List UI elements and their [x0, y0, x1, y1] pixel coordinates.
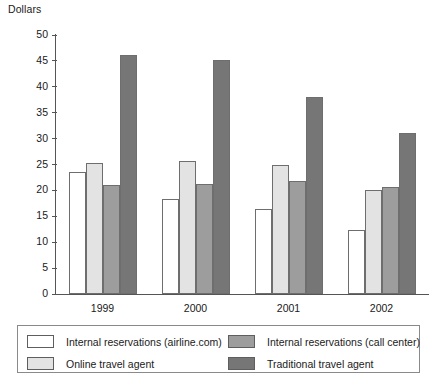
bar [120, 55, 137, 294]
bar [69, 172, 86, 294]
legend-label: Traditional travel agent [267, 358, 373, 370]
y-tick-label: 15 [36, 209, 48, 222]
y-tick-mark [52, 112, 57, 113]
y-tick-label: 50 [36, 28, 48, 41]
x-axis-label: 1999 [56, 302, 149, 314]
y-tick-label: 25 [36, 158, 48, 171]
bar-group [69, 35, 137, 294]
bar [289, 181, 306, 294]
bar-group [162, 35, 230, 294]
y-tick-mark [52, 268, 57, 269]
bar [196, 184, 213, 294]
bar [348, 230, 365, 294]
chart-legend: Internal reservations (airline.com)Onlin… [17, 325, 420, 373]
y-tick-mark [52, 190, 57, 191]
bar [272, 165, 289, 295]
y-tick-label: 45 [36, 54, 48, 67]
bar [365, 190, 382, 294]
x-axis-label: 2001 [242, 302, 335, 314]
bar [255, 209, 272, 294]
legend-swatch [228, 335, 255, 348]
legend-entry: Online travel agent [27, 355, 222, 372]
bar [103, 185, 120, 294]
legend-label: Internal reservations (airline.com) [66, 336, 222, 348]
y-tick-label: 30 [36, 132, 48, 145]
bar-group [348, 35, 416, 294]
y-tick-mark [52, 35, 57, 36]
x-axis-line [55, 294, 429, 295]
y-tick-label: 20 [36, 183, 48, 196]
plot-area: 05101520253035404550 [56, 35, 428, 294]
y-tick-mark [52, 242, 57, 243]
legend-column-right: Internal reservations (call center)Tradi… [228, 333, 420, 377]
legend-entry: Internal reservations (call center) [228, 333, 420, 350]
legend-entry: Internal reservations (airline.com) [27, 333, 222, 350]
bar [306, 97, 323, 294]
bar [179, 161, 196, 294]
y-tick-mark [52, 216, 57, 217]
x-axis-label: 2002 [335, 302, 428, 314]
bar [399, 133, 416, 294]
y-tick-mark [52, 138, 57, 139]
legend-swatch [27, 357, 54, 370]
legend-swatch [27, 335, 54, 348]
bar [382, 187, 399, 294]
bar [162, 199, 179, 294]
legend-label: Internal reservations (call center) [267, 336, 420, 348]
legend-column-left: Internal reservations (airline.com)Onlin… [27, 333, 222, 377]
y-tick-label: 35 [36, 106, 48, 119]
y-axis-title: Dollars [8, 3, 41, 15]
x-axis-label: 2000 [149, 302, 242, 314]
bar [86, 163, 103, 294]
y-tick-mark [52, 164, 57, 165]
y-tick-label: 40 [36, 80, 48, 93]
y-tick-mark [52, 86, 57, 87]
bar [213, 60, 230, 294]
legend-swatch [228, 357, 255, 370]
legend-entry: Traditional travel agent [228, 355, 420, 372]
y-tick-label: 0 [42, 287, 48, 300]
y-tick-label: 5 [42, 261, 48, 274]
y-tick-mark [52, 60, 57, 61]
y-tick-mark [52, 294, 57, 295]
bar-chart: Dollars 05101520253035404550 Internal re… [0, 0, 439, 387]
y-tick-label: 10 [36, 235, 48, 248]
legend-label: Online travel agent [66, 358, 154, 370]
bar-group [255, 35, 323, 294]
